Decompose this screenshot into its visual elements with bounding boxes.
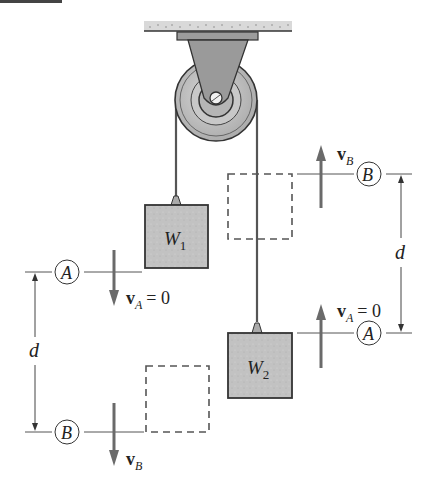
mount-plate [177,32,258,40]
right-datum-b: B [297,162,412,186]
velocity-arrow-right-vb: vB [316,144,354,208]
velocity-arrow-left-vb: vB [109,403,143,473]
right-datum-a: A [297,321,412,345]
header-bar [0,0,62,3]
left-datum-a: A [25,260,142,284]
svg-text:vA= 0: vA= 0 [126,288,170,312]
svg-text:A: A [362,324,375,344]
dashed-position-w2-final [228,174,292,239]
svg-text:B: B [362,165,373,185]
hook-w1 [171,196,181,205]
left-datum-b: B [25,420,144,444]
svg-text:d: d [29,339,40,361]
ceiling [144,21,292,31]
right-distance-d: d [395,175,406,332]
svg-text:A: A [60,263,73,283]
svg-text:d: d [395,241,406,263]
dashed-position-w1-final [146,366,209,432]
left-distance-d: d [29,273,40,431]
svg-text:vA= 0: vA= 0 [337,301,381,325]
svg-text:vB: vB [337,144,354,168]
svg-text:B: B [61,423,72,443]
hook-w2 [252,323,262,333]
pulley-diagram: W1 W2 A B d vA= 0 vB [0,0,437,498]
svg-text:vB: vB [126,449,143,473]
